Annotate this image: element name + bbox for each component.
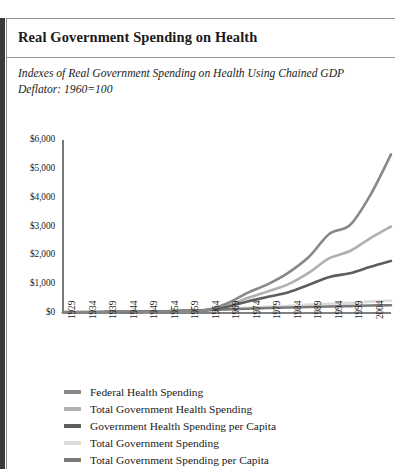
line-plot	[6, 128, 395, 378]
y-axis-tick-label: $5,000	[9, 163, 55, 173]
x-axis-tick-label: 1959	[190, 301, 200, 319]
x-axis-tick-label: 1934	[88, 301, 98, 319]
x-axis-tick-label: 1994	[334, 301, 344, 319]
legend-color-swatch	[64, 441, 81, 445]
x-axis-tick-label: 1944	[129, 301, 139, 319]
left-accent-rule	[0, 18, 5, 469]
legend-item-label: Total Government Spending	[90, 437, 219, 449]
x-axis-tick-label: 1999	[354, 301, 364, 319]
y-axis-tick-label: $6,000	[9, 134, 55, 144]
x-axis-tick-label: 2004	[375, 301, 385, 319]
x-axis-tick-label: 1989	[313, 301, 323, 319]
legend-item-label: Total Government Spending per Capita	[90, 454, 269, 466]
x-axis-tick-label: 1964	[211, 301, 221, 319]
x-axis-tick-label: 1969	[231, 301, 241, 319]
page-title: Real Government Spending on Health	[18, 29, 257, 46]
series-line	[63, 227, 391, 313]
x-axis-tick-label: 1939	[108, 301, 118, 319]
legend-item-label: Federal Health Spending	[90, 386, 203, 398]
series-line	[63, 154, 391, 312]
x-axis-tick-label: 1974	[252, 301, 262, 319]
legend-item[interactable]: Total Government Spending	[64, 435, 276, 452]
legend-item[interactable]: Federal Health Spending	[64, 383, 276, 400]
chart-legend: Federal Health SpendingTotal Government …	[64, 383, 276, 469]
y-axis-tick-label: $3,000	[9, 221, 55, 231]
x-axis-tick-label: 1954	[170, 301, 180, 319]
legend-item[interactable]: Government Health Spending per Capita	[64, 417, 276, 434]
legend-color-swatch	[64, 390, 81, 394]
x-axis-tick-label: 1979	[272, 301, 282, 319]
legend-item[interactable]: Total Government Health Spending	[64, 400, 276, 417]
x-axis-tick-label: 1984	[293, 301, 303, 319]
chart-subtitle: Indexes of Real Government Spending on H…	[18, 66, 378, 98]
legend-color-swatch	[64, 424, 81, 428]
chart-figure: Real Government Spending on Health Index…	[0, 0, 395, 469]
x-axis-tick-label: 1929	[67, 301, 77, 319]
legend-item-label: Government Health Spending per Capita	[90, 420, 276, 432]
chart-area: $0$1,000$2,000$3,000$4,000$5,000$6,000 1…	[6, 128, 395, 378]
legend-item-label: Total Government Health Spending	[90, 403, 252, 415]
legend-item[interactable]: Total Government Spending per Capita	[64, 452, 276, 469]
x-axis-tick-label: 1949	[149, 301, 159, 319]
y-axis-tick-label: $2,000	[9, 249, 55, 259]
legend-color-swatch	[64, 458, 81, 462]
y-axis-tick-label: $1,000	[9, 278, 55, 288]
legend-color-swatch	[64, 407, 81, 411]
y-axis-tick-label: $4,000	[9, 192, 55, 202]
title-divider	[7, 57, 395, 58]
y-axis-tick-label: $0	[9, 307, 55, 317]
